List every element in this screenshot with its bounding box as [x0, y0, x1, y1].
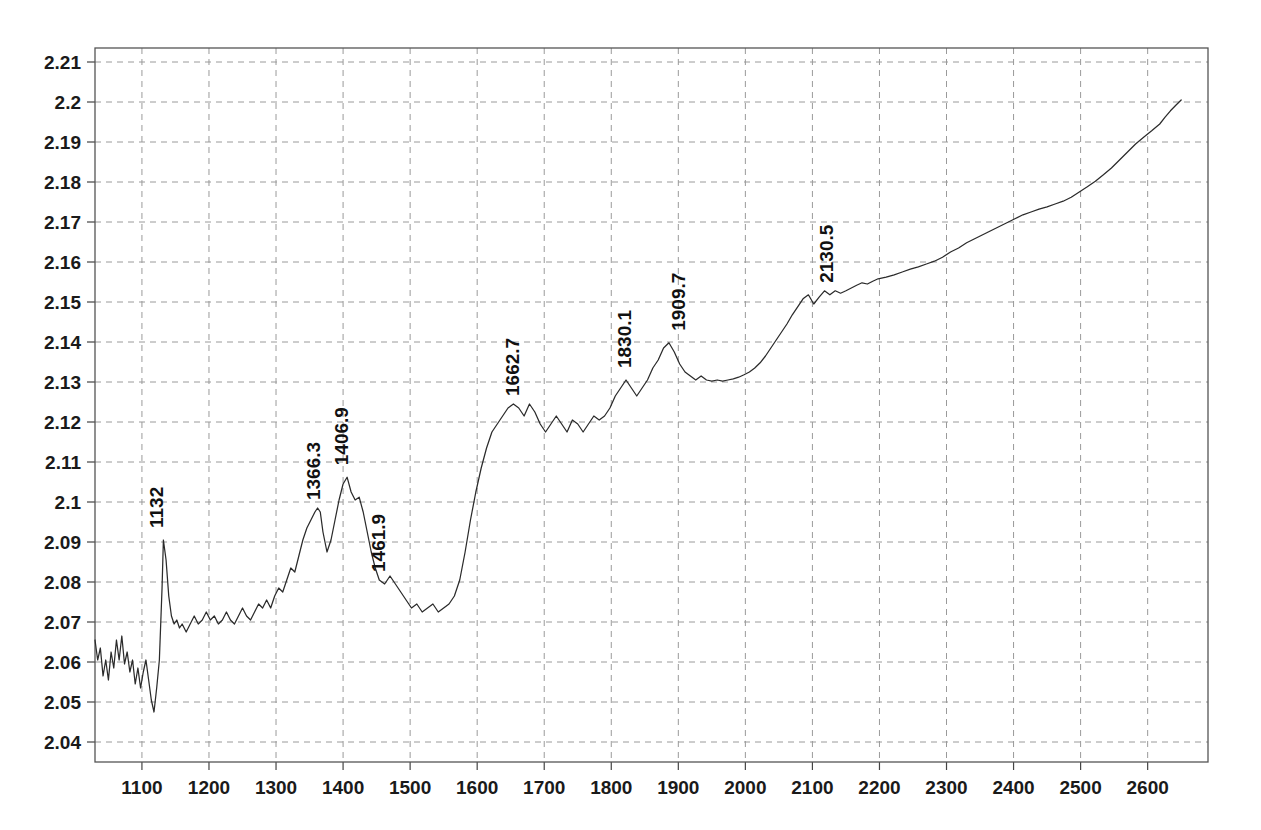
y-tick-label: 2.2 [55, 92, 81, 113]
peak-label: 1406.9 [331, 407, 352, 465]
y-tick-label: 2.1 [55, 492, 82, 513]
peak-label: 1830.1 [614, 309, 635, 368]
y-tick-label: 2.17 [44, 212, 81, 233]
y-tick-label: 2.18 [44, 172, 81, 193]
x-tick-label: 1200 [188, 777, 230, 798]
x-tick-label: 1100 [121, 777, 162, 798]
y-tick-label: 2.14 [44, 332, 81, 353]
x-tick-label: 1500 [389, 777, 431, 798]
y-tick-label: 2.19 [44, 132, 81, 153]
y-tick-label: 2.04 [44, 732, 81, 753]
x-tick-label: 2000 [724, 777, 766, 798]
y-tick-label: 2.11 [45, 452, 81, 473]
y-tick-label: 2.09 [44, 532, 81, 553]
peak-label: 1909.7 [668, 273, 689, 331]
y-tick-label: 2.06 [44, 652, 81, 673]
x-tick-label: 2300 [925, 777, 967, 798]
y-tick-label: 2.16 [44, 252, 81, 273]
x-tick-label: 2200 [858, 777, 900, 798]
y-tick-label: 2.15 [44, 292, 81, 313]
x-tick-label: 1400 [322, 777, 364, 798]
chart-page: 2.042.052.062.072.082.092.12.112.122.132… [0, 0, 1261, 830]
x-tick-label: 1800 [590, 777, 632, 798]
peak-label: 2130.5 [816, 224, 837, 283]
peak-label: 1132 [146, 487, 167, 528]
peak-label: 1366.3 [303, 442, 324, 500]
peak-label: 1461.9 [368, 514, 389, 572]
y-tick-label: 2.07 [44, 612, 81, 633]
chart-background [0, 0, 1261, 830]
x-tick-label: 2500 [1059, 777, 1101, 798]
x-tick-label: 2600 [1127, 777, 1169, 798]
y-tick-label: 2.05 [44, 692, 81, 713]
y-tick-label: 2.21 [44, 52, 81, 73]
x-tick-label: 2100 [791, 777, 833, 798]
y-tick-label: 2.13 [44, 372, 81, 393]
x-tick-label: 1600 [456, 777, 498, 798]
x-tick-label: 1300 [255, 777, 297, 798]
peak-label: 1662.7 [502, 338, 523, 396]
y-tick-label: 2.08 [44, 572, 81, 593]
x-tick-label: 2400 [992, 777, 1034, 798]
x-tick-label: 1700 [523, 777, 565, 798]
y-tick-label: 2.12 [44, 412, 81, 433]
x-tick-label: 1900 [657, 777, 699, 798]
spectrum-chart: 2.042.052.062.072.082.092.12.112.122.132… [0, 0, 1261, 830]
